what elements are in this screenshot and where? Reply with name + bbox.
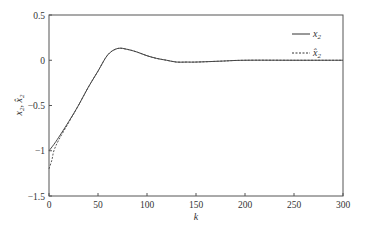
series-x2 (49, 48, 343, 151)
svg-text:x2, x̂2: x2, x̂2 (13, 94, 26, 116)
series-x2-estimate (49, 48, 343, 169)
y-axis-label: x2, x̂2 (13, 94, 26, 116)
x-axis-label: k (194, 211, 199, 222)
axes-frame (49, 15, 343, 196)
x-tick-label: 250 (287, 200, 302, 210)
x-tick-label: 150 (189, 200, 204, 210)
y-tick-label: 0.5 (33, 11, 45, 21)
line-chart: 050100150200250300 0.50−0.5−1−1.5 k x2, … (0, 0, 370, 238)
legend-label-x2: x2 (312, 28, 321, 41)
x-tick-label: 0 (47, 200, 52, 210)
y-tick-label: −1.5 (28, 192, 45, 202)
x-tick-label: 100 (140, 200, 155, 210)
y-tick-label: 0 (40, 56, 45, 66)
x-tick-label: 50 (93, 200, 103, 210)
x-tick-label: 200 (238, 200, 253, 210)
plot-area (49, 48, 343, 169)
y-tick-label: −0.5 (28, 101, 45, 111)
y-tick-label: −1 (35, 146, 45, 156)
legend-label-x2-hat: x̂2 (312, 47, 321, 60)
x-tick-label: 300 (336, 200, 351, 210)
y-axis-ticks: 0.50−0.5−1−1.5 (28, 11, 52, 202)
legend: x2 x̂2 (292, 28, 321, 60)
